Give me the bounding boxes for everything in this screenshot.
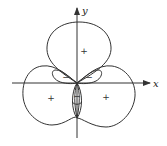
sign-upper-right-loop: − xyxy=(85,72,93,82)
y-axis-label: y xyxy=(81,5,88,16)
sign-right-lobe: + xyxy=(102,92,110,102)
sign-left-lobe: + xyxy=(47,93,55,103)
sign-bottom-loop: − xyxy=(73,91,81,101)
sign-top-lobe: + xyxy=(80,46,88,56)
polar-diagram: x y + + + − − − xyxy=(0,0,167,146)
sign-upper-left-loop: − xyxy=(62,72,70,82)
x-axis-label: x xyxy=(153,78,159,89)
